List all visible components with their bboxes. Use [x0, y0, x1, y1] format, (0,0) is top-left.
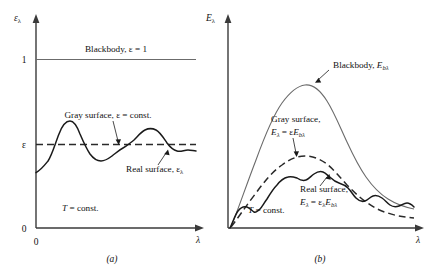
panel-b-x-axis-label: λ	[415, 235, 420, 245]
panel-a-x-axis-label: λ	[195, 235, 200, 245]
radiation-emissivity-figure: ελ λ 1 ε 0 0 Blackbody, ε = 1 Gray surfa…	[0, 0, 437, 272]
panel-a-blackbody-label: Blackbody, ε = 1	[85, 44, 147, 54]
panel-b-gray-surface-label-line1: Gray surface,	[271, 114, 320, 124]
panel-a-ytick-one: 1	[22, 55, 27, 65]
panel-a-ytick-epsilon: ε	[22, 140, 26, 150]
panel-b-blackbody-leader	[318, 70, 329, 80]
panel-b-y-axis	[225, 14, 232, 228]
panel-b-blackbody-label: Blackbody, Ebλ	[333, 60, 389, 71]
panel-a-real-surface-label: Real surface, ελ	[126, 164, 184, 175]
panel-b-y-axis-label: Eλ	[205, 13, 216, 24]
panel-a-y-axis	[33, 14, 40, 228]
panel-a-x-axis	[36, 225, 204, 232]
panel-a-caption: (a)	[106, 254, 117, 265]
panel-a-gray-surface-leader	[113, 121, 118, 141]
panel-b-gray-surface-arrow	[294, 151, 299, 157]
panel-b-real-surface-label-line2: Eλ = ελEbλ	[299, 197, 337, 208]
panel-b-temperature-label: T = const.	[248, 205, 285, 215]
panel-b-caption: (b)	[314, 254, 325, 265]
panel-a-temperature-label: T = const.	[62, 203, 99, 213]
panel-a-gray-surface-label: Gray surface, ε = const.	[64, 110, 151, 120]
panel-a-y-axis-label: ελ	[14, 13, 22, 24]
panel-b-gray-surface-label-line2: Eλ = εEbλ	[270, 127, 305, 138]
panel-b-real-surface-label-line1: Real surface,	[300, 184, 348, 194]
panel-b-x-axis	[228, 225, 424, 232]
panel-a-real-surface-arrow	[164, 150, 169, 156]
panel-a: ελ λ 1 ε 0 0 Blackbody, ε = 1 Gray surfa…	[14, 13, 204, 265]
panel-a-ytick-zero: 0	[22, 224, 27, 234]
panel-b-gray-surface-leader	[293, 138, 296, 153]
panel-b-blackbody-arrow	[315, 78, 321, 83]
panel-a-xtick-zero: 0	[34, 237, 39, 247]
panel-b: Eλ λ Blackbody, Ebλ Gray surface, Eλ = ε…	[205, 13, 424, 265]
